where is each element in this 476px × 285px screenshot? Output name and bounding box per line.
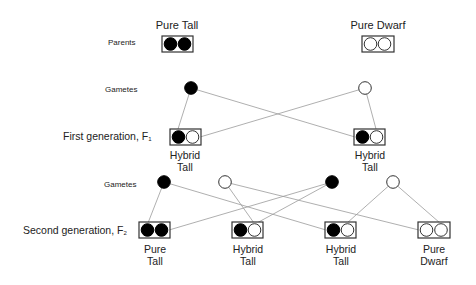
recessive-allele-icon (420, 224, 433, 237)
f2-label-text: Second generation, F (23, 224, 123, 236)
row-label-first-generation: First generation, F1 (63, 130, 152, 142)
f2-caption-2: Hybrid Tall (218, 243, 278, 267)
gamete-recessive-icon (359, 82, 372, 95)
row-label-gametes-1: Gametes (105, 85, 137, 94)
caption-line: Tall (125, 255, 185, 267)
row-label-second-generation: Second generation, F2 (23, 224, 127, 236)
monohybrid-cross-diagram: Parents Gametes First generation, F1 Gam… (0, 0, 476, 285)
caption-line: Tall (340, 161, 400, 173)
f2-pure-tall (139, 222, 170, 238)
gamete-recessive-icon (219, 176, 232, 189)
f1-subscript: 1 (148, 136, 151, 142)
f2-hybrid-tall-2 (325, 222, 356, 238)
f2-pure-dwarf (418, 222, 450, 238)
recessive-allele-icon (370, 131, 383, 144)
connector-line (347, 182, 393, 223)
dominant-allele-icon (234, 224, 247, 237)
parent-title-pure-dwarf: Pure Dwarf (345, 19, 411, 31)
dominant-allele-icon (178, 38, 191, 51)
row-label-gametes-2: Gametes (104, 180, 136, 189)
f1-caption-left: Hybrid Tall (155, 149, 215, 173)
caption-line: Dwarf (404, 255, 464, 267)
caption-line: Tall (218, 255, 278, 267)
recessive-allele-icon (248, 224, 261, 237)
f1-hybrid-left (170, 129, 201, 145)
f2-caption-4: Pure Dwarf (404, 243, 464, 267)
caption-line: Hybrid (311, 243, 371, 255)
f1-hybrid-right (354, 129, 385, 145)
connector-line (200, 88, 365, 137)
parent-title-pure-tall: Pure Tall (147, 19, 207, 31)
recessive-allele-icon (186, 131, 199, 144)
recessive-allele-icon (364, 38, 377, 51)
caption-line: Pure (404, 243, 464, 255)
connector-line (255, 182, 332, 224)
gamete-recessive-icon (387, 176, 400, 189)
gamete-dominant-icon (326, 176, 339, 189)
dominant-allele-icon (327, 224, 340, 237)
f2-caption-1: Pure Tall (125, 243, 185, 267)
f2-subscript: 2 (123, 230, 126, 236)
caption-line: Tall (155, 161, 215, 173)
caption-line: Tall (311, 255, 371, 267)
dominant-allele-icon (164, 38, 177, 51)
connector-line (393, 182, 440, 223)
connector-line (191, 88, 355, 137)
dominant-allele-icon (155, 224, 168, 237)
f1-caption-right: Hybrid Tall (340, 149, 400, 173)
parent-pure-tall (162, 36, 193, 52)
caption-line: Pure (125, 243, 185, 255)
gamete-dominant-icon (185, 82, 198, 95)
parent-pure-dwarf (362, 36, 394, 52)
caption-line: Hybrid (340, 149, 400, 161)
f2-hybrid-tall-1 (232, 222, 263, 238)
dominant-allele-icon (356, 131, 369, 144)
recessive-allele-icon (435, 224, 448, 237)
dominant-allele-icon (141, 224, 154, 237)
caption-line: Hybrid (218, 243, 278, 255)
row-label-parents: Parents (108, 38, 136, 47)
dominant-allele-icon (172, 131, 185, 144)
recessive-allele-icon (378, 38, 391, 51)
gamete-dominant-icon (158, 176, 171, 189)
f2-caption-3: Hybrid Tall (311, 243, 371, 267)
f1-label-text: First generation, F (63, 130, 148, 142)
caption-line: Hybrid (155, 149, 215, 161)
recessive-allele-icon (341, 224, 354, 237)
